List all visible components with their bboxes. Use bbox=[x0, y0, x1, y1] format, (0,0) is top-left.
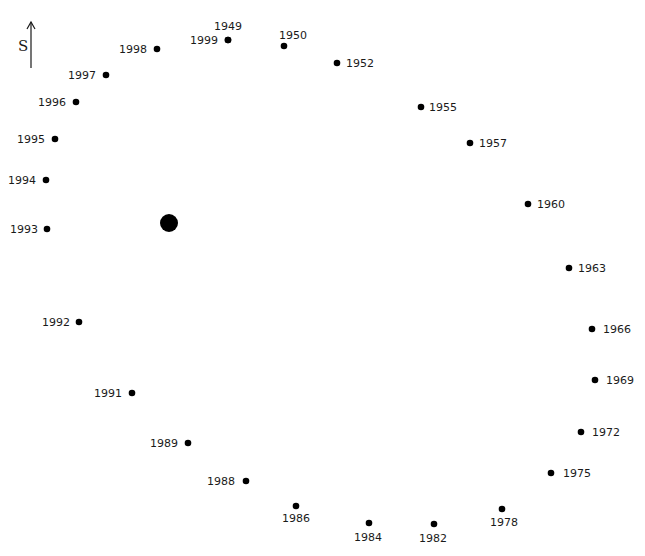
year-label: 1984 bbox=[354, 531, 382, 544]
year-point-1957: 1957 bbox=[467, 137, 507, 150]
point-dot bbox=[154, 46, 161, 53]
point-dot bbox=[44, 226, 51, 233]
year-point-1952: 1952 bbox=[334, 57, 374, 70]
position-loop-diagram: S 19491999195019521955195719601963196619… bbox=[0, 0, 645, 556]
point-dot bbox=[243, 478, 250, 485]
year-point-1960: 1960 bbox=[525, 198, 565, 211]
year-point-1991: 1991 bbox=[94, 387, 135, 400]
direction-label: S bbox=[18, 37, 28, 55]
year-label: 1988 bbox=[207, 475, 235, 488]
year-point-1986: 1986 bbox=[282, 503, 310, 525]
point-dot bbox=[185, 440, 192, 447]
year-label: 1982 bbox=[419, 532, 447, 545]
year-point-1969: 1969 bbox=[592, 374, 634, 387]
point-dot bbox=[566, 265, 573, 272]
year-label: 1978 bbox=[490, 516, 518, 529]
point-dot bbox=[129, 390, 136, 397]
point-dot bbox=[418, 104, 425, 111]
year-point-1984: 1984 bbox=[354, 520, 382, 544]
diagram-canvas: S 19491999195019521955195719601963196619… bbox=[0, 0, 645, 556]
year-label: 1969 bbox=[606, 374, 634, 387]
year-label: 1996 bbox=[38, 96, 66, 109]
point-dot bbox=[578, 429, 585, 436]
year-label: 1997 bbox=[68, 69, 96, 82]
year-point-1978: 1978 bbox=[490, 506, 518, 529]
year-label: 1999 bbox=[190, 34, 218, 47]
year-label: 1963 bbox=[578, 262, 606, 275]
year-point-1999: 1999 bbox=[190, 34, 231, 47]
point-dot bbox=[431, 521, 438, 528]
point-dot bbox=[73, 99, 80, 106]
year-label: 1989 bbox=[150, 437, 178, 450]
point-dot bbox=[281, 43, 288, 50]
year-label: 1994 bbox=[8, 174, 36, 187]
year-point-1972: 1972 bbox=[578, 426, 620, 439]
year-label: 1966 bbox=[603, 323, 631, 336]
year-point-1996: 1996 bbox=[38, 96, 79, 109]
point-dot bbox=[43, 177, 50, 184]
point-dot bbox=[366, 520, 373, 527]
year-label: 1992 bbox=[42, 316, 70, 329]
point-dot bbox=[334, 60, 341, 67]
year-label: 1949 bbox=[214, 20, 242, 33]
point-dot bbox=[76, 319, 83, 326]
year-point-1982: 1982 bbox=[419, 521, 447, 545]
year-point-1992: 1992 bbox=[42, 316, 82, 329]
year-label: 1995 bbox=[17, 133, 45, 146]
year-label: 1986 bbox=[282, 512, 310, 525]
year-point-1950: 1950 bbox=[279, 29, 307, 49]
year-points: 1949199919501952195519571960196319661969… bbox=[8, 20, 634, 545]
year-point-1997: 1997 bbox=[68, 69, 109, 82]
year-point-1988: 1988 bbox=[207, 475, 249, 488]
year-point-1993: 1993 bbox=[10, 223, 50, 236]
year-label: 1975 bbox=[563, 467, 591, 480]
point-dot bbox=[52, 136, 59, 143]
year-point-1955: 1955 bbox=[418, 101, 457, 114]
year-label: 1972 bbox=[592, 426, 620, 439]
year-point-1995: 1995 bbox=[17, 133, 58, 146]
year-point-1998: 1998 bbox=[119, 43, 160, 56]
direction-indicator: S bbox=[18, 22, 35, 68]
point-dot bbox=[525, 201, 532, 208]
year-point-1963: 1963 bbox=[566, 262, 606, 275]
point-dot bbox=[103, 72, 110, 79]
year-point-1975: 1975 bbox=[548, 467, 591, 480]
year-point-1966: 1966 bbox=[589, 323, 631, 336]
year-point-1994: 1994 bbox=[8, 174, 49, 187]
point-dot bbox=[499, 506, 506, 513]
year-point-1989: 1989 bbox=[150, 437, 191, 450]
point-dot bbox=[293, 503, 300, 510]
point-dot bbox=[225, 37, 232, 44]
year-label: 1952 bbox=[346, 57, 374, 70]
year-label: 1957 bbox=[479, 137, 507, 150]
point-dot bbox=[592, 377, 599, 384]
point-dot bbox=[548, 470, 555, 477]
year-label: 1991 bbox=[94, 387, 122, 400]
year-label: 1955 bbox=[429, 101, 457, 114]
point-dot bbox=[589, 326, 596, 333]
year-label: 1993 bbox=[10, 223, 38, 236]
year-label: 1998 bbox=[119, 43, 147, 56]
year-label: 1950 bbox=[279, 29, 307, 42]
center-marker bbox=[160, 214, 178, 232]
point-dot bbox=[467, 140, 474, 147]
year-label: 1960 bbox=[537, 198, 565, 211]
